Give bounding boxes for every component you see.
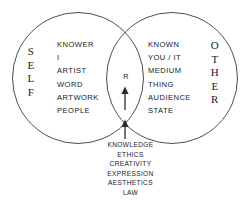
other-term: STATE (148, 104, 191, 117)
other-letter: H (206, 66, 224, 80)
other-letter: E (206, 80, 224, 94)
intersection-label: R (110, 72, 142, 81)
inner-arrow-icon (121, 87, 128, 111)
intersection-term-list: KNOWLEDGE ETHICS CREATIVITY EXPRESSION A… (78, 140, 183, 198)
other-term: THING (148, 78, 191, 91)
intersection-term: CREATIVITY (78, 159, 183, 169)
self-term: PEOPLE (57, 104, 99, 117)
self-letter: E (22, 59, 40, 73)
intersection-term: LAW (78, 188, 183, 198)
self-term: I (57, 51, 99, 64)
self-term: KNOWER (57, 38, 99, 51)
intersection-term: EXPRESSION (78, 169, 183, 179)
venn-diagram-canvas: S E L F O T H E R KNOWER I ARTIST WORD A… (0, 0, 250, 211)
other-term: YOU / IT (148, 51, 191, 64)
self-letter: F (22, 86, 40, 100)
self-term: ARTWORK (57, 91, 99, 104)
other-set-label: O T H E R (206, 39, 224, 107)
intersection-term: AESTHETICS (78, 178, 183, 188)
self-term: WORD (57, 78, 99, 91)
other-letter: T (206, 53, 224, 67)
self-term: ARTIST (57, 64, 99, 77)
other-term: MEDIUM (148, 64, 191, 77)
other-letter: R (206, 93, 224, 107)
self-set-label: S E L F (22, 45, 40, 99)
other-letter: O (206, 39, 224, 53)
self-letter: S (22, 45, 40, 59)
other-term: AUDIENCE (148, 91, 191, 104)
outer-arrow-icon (121, 120, 128, 140)
self-letter: L (22, 72, 40, 86)
intersection-term: KNOWLEDGE (78, 140, 183, 150)
other-term: KNOWN (148, 38, 191, 51)
self-term-list: KNOWER I ARTIST WORD ARTWORK PEOPLE (57, 38, 99, 117)
other-term-list: KNOWN YOU / IT MEDIUM THING AUDIENCE STA… (148, 38, 191, 117)
intersection-term: ETHICS (78, 150, 183, 160)
